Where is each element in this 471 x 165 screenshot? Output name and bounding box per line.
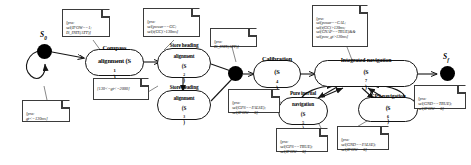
state-store-heading-alignment-3[interactable]: Store heading alignment (S3): [157, 90, 211, 120]
state-s5-line3: (S: [290, 112, 316, 117]
note-fold-icon: [191, 9, 199, 17]
state-s2-line2: alignment: [170, 54, 199, 59]
state-s3-line1: Store heading: [170, 85, 199, 90]
state-integrated-navigation[interactable]: Integrated navigation (S7): [314, 60, 418, 87]
initial-state-sub: 0: [44, 35, 47, 41]
state-s3-tail: ): [170, 120, 199, 125]
note-precondition-8: [pre: sel(GPS==TRUE); sel(IFOW==6]: [276, 128, 328, 152]
junction-node-1[interactable]: [228, 66, 243, 81]
note-precondition-5: [pre: IS_INIT(ATT)]: [210, 28, 257, 47]
note-precondition-4: [130<=gt<=2000]: [93, 78, 149, 100]
note-3-text: [pre: gt<=130ms]: [26, 111, 48, 121]
note-precondition-7: [pre: sel(GPS==FALSE); sel(IFOW==6]: [228, 89, 280, 113]
initial-state-label: S0: [40, 30, 47, 41]
initial-state-node[interactable]: [37, 44, 52, 59]
note-1-text: [pre: sel(IFOW==1; IS_INIT(ATT)]: [66, 20, 92, 34]
note-fold-icon: [61, 101, 69, 109]
state-s6-line1: GPS navigation: [370, 94, 405, 100]
note-precondition-2: [pre: sel(power==GC; sel(t(GC)>130ms]: [143, 8, 200, 37]
state-pure-inertial-navigation[interactable]: Pure inertial navigation (S5): [278, 97, 328, 125]
state-s7-line2: (S: [341, 69, 391, 75]
note-6-text: [pre: sel(power==CAL; sel(t(GC)>130ms; s…: [316, 16, 355, 39]
note-fold-icon: [319, 129, 327, 137]
note-fold-icon: [359, 6, 367, 14]
note-precondition-10: [pre: sel(GND==TRUE); sel(IFOW==6]: [414, 85, 466, 109]
leader-n4: [148, 86, 158, 92]
note-fold-icon: [457, 86, 465, 94]
state-s6-line2: (S: [370, 106, 405, 112]
final-state-sub: f: [447, 57, 449, 63]
edge-s7-to-s5: [318, 87, 337, 98]
state-s3-line2: alignment: [170, 96, 199, 101]
note-9-text: [pre: sel(GND==FALSE); sel(IFOW==6]: [341, 137, 376, 151]
state-gps-navigation[interactable]: GPS navigation (S6): [358, 97, 418, 122]
edge-start-to-s1: [52, 52, 84, 58]
note-fold-icon: [248, 29, 256, 37]
final-state-label: Sf: [443, 52, 449, 63]
note-5-text: [pre: IS_INIT(ATT)]: [214, 39, 239, 49]
state-s5-line2: navigation: [290, 102, 316, 107]
state-s4-line1: Calibration: [262, 56, 292, 63]
note-7-text: [pre: sel(GPS==FALSE); sel(IFOW==6]: [232, 100, 266, 114]
state-s7-tail: ): [341, 84, 391, 90]
state-s3-line3: (S: [170, 106, 199, 111]
state-s1-line2: alignment (S: [98, 58, 131, 65]
state-s1-line1: Compass: [98, 45, 131, 52]
note-fold-icon: [380, 127, 388, 135]
state-calibration[interactable]: Calibration (S4): [253, 60, 301, 88]
state-s4-line2: (S: [262, 69, 292, 76]
state-compass-alignment[interactable]: Compass alignment (S1): [85, 49, 144, 76]
note-precondition-3: [pre: gt<=130ms]: [22, 100, 70, 122]
state-s2-line3: (S: [170, 64, 199, 69]
note-fold-icon: [140, 79, 148, 87]
state-s7-sub: 7: [365, 78, 367, 83]
leader-n3: [44, 86, 47, 100]
note-fold-icon: [101, 10, 109, 18]
note-fold-icon: [271, 90, 279, 98]
note-4-text: [130<=gt<=2000]: [97, 87, 130, 92]
state-s2-line1: Store heading: [170, 43, 199, 48]
note-10-text: [pre: sel(GND==TRUE); sel(IFOW==6]: [418, 96, 452, 110]
note-8-text: [pre: sel(GPS==TRUE); sel(IFOW==6]: [280, 139, 313, 153]
final-state-node[interactable]: [440, 66, 455, 81]
state-s2-tail: ): [170, 78, 199, 83]
state-store-heading-alignment-2[interactable]: Store heading alignment (S2): [157, 48, 211, 78]
state-s6-tail: ): [370, 119, 405, 125]
state-machine-diagram: S0 Sf Compass alignment (S1) Store headi…: [0, 0, 471, 165]
state-s7-line1: Integrated navigation: [341, 57, 391, 63]
state-s5-line1: Pure inertial: [290, 91, 316, 96]
note-2-text: [pre: sel(power==GC; sel(t(GC)>130ms]: [147, 19, 178, 33]
note-precondition-1: [pre: sel(IFOW==1; IS_INIT(ATT)]: [62, 9, 110, 37]
note-precondition-9: [pre: sel(GND==FALSE); sel(IFOW==6]: [337, 126, 389, 150]
note-precondition-6: [pre: sel(power==CAL; sel(t(GC)>130ms; s…: [312, 5, 368, 47]
